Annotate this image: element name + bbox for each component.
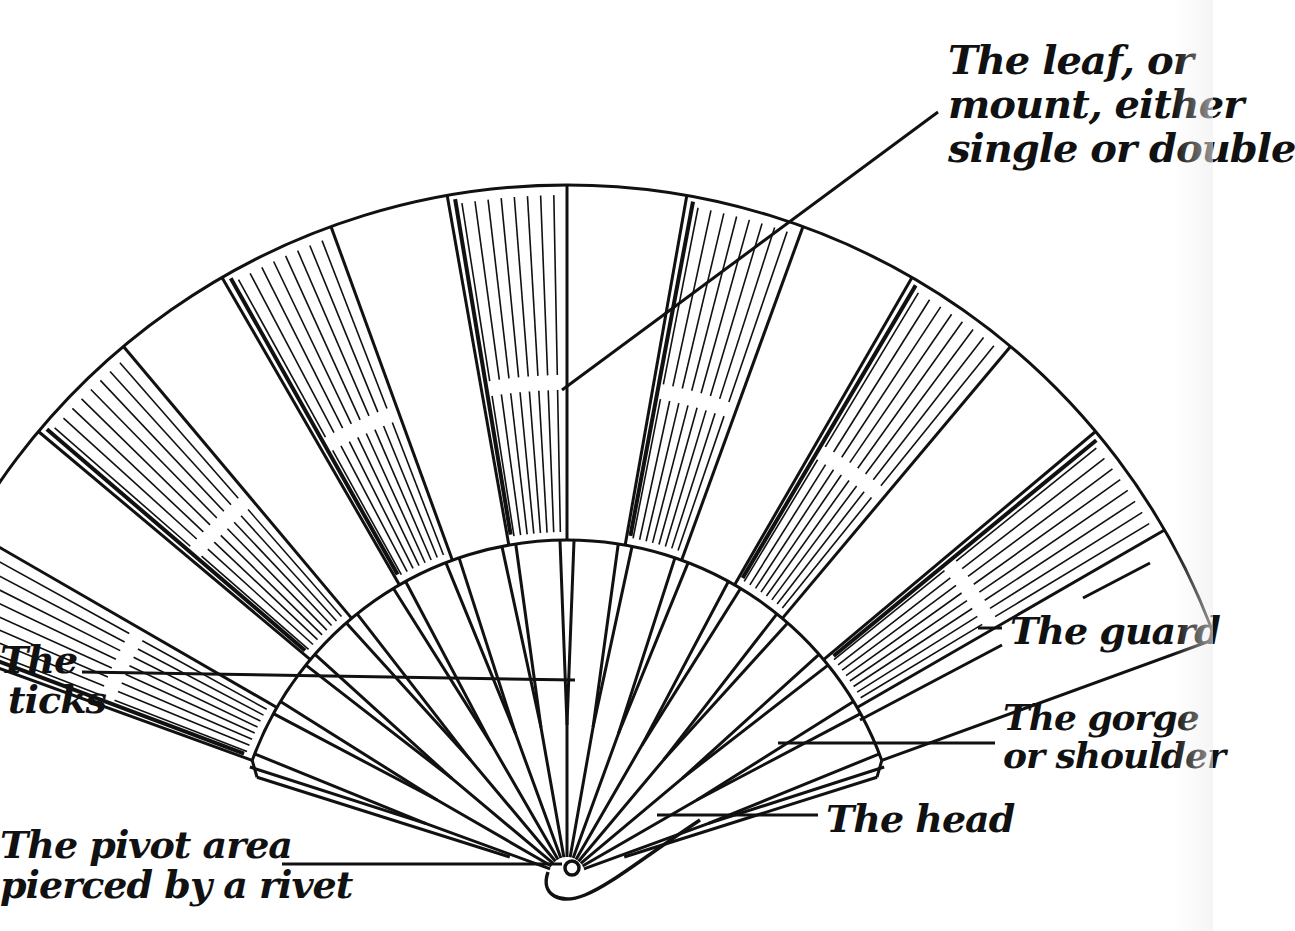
label-line: The	[0, 640, 106, 680]
label-line: The pivot area	[0, 825, 352, 865]
label-line: ticks	[0, 680, 106, 720]
label-line: The leaf, or	[948, 38, 1295, 82]
leaf-pleat-hatching	[0, 195, 1149, 753]
label-line: pierced by a rivet	[0, 865, 352, 905]
label-line: single or double	[948, 126, 1295, 170]
label-leaf-mount: The leaf, or mount, either single or dou…	[948, 38, 1295, 170]
label-head: The head	[826, 800, 1014, 838]
label-pivot-area: The pivot area pierced by a rivet	[0, 825, 352, 905]
page-edge-shadow	[1173, 0, 1213, 931]
pivot-rivet	[546, 820, 700, 899]
label-line: mount, either	[948, 82, 1295, 126]
label-sticks: The ticks	[0, 640, 106, 720]
